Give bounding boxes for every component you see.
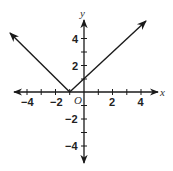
y-axis-label: y [79, 7, 85, 19]
origin-label: O [74, 94, 82, 106]
y-tick-label: 2 [72, 60, 78, 72]
x-tick-label: 4 [138, 96, 145, 108]
left-branch [10, 33, 70, 92]
x-axis-label: x [159, 86, 165, 98]
right-branch [70, 21, 146, 92]
y-tick-label: −2 [65, 113, 78, 125]
x-tick-label: −2 [50, 96, 63, 108]
y-tick-label: −4 [65, 140, 78, 152]
x-tick-label: −4 [21, 96, 34, 108]
coordinate-plane: −4 −2 2 4 4 2 −2 −4 x y O [0, 0, 173, 171]
x-tick-label: 2 [109, 96, 115, 108]
y-tick-label: 4 [72, 33, 79, 45]
